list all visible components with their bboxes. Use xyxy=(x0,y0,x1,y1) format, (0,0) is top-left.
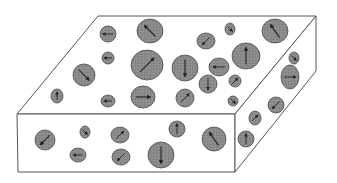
grain-top-17 xyxy=(176,89,194,107)
grain-top-11 xyxy=(225,23,235,35)
grain-right-23 xyxy=(238,131,254,147)
grain-top-9 xyxy=(172,55,198,81)
slab-diagram-canvas xyxy=(0,0,337,183)
magnetic-grains-diagram xyxy=(0,0,337,183)
grain-top-5 xyxy=(73,64,95,86)
grain-front-28 xyxy=(112,149,130,165)
grain-top-14 xyxy=(232,43,260,69)
grain-right-21 xyxy=(268,97,284,113)
grain-top-6 xyxy=(51,89,63,103)
grain-right-19 xyxy=(289,52,299,64)
grain-top-1 xyxy=(100,26,116,42)
grain-front-27 xyxy=(70,148,86,162)
grain-top-4 xyxy=(131,50,163,80)
grain-top-15 xyxy=(199,75,217,93)
grain-top-18 xyxy=(228,96,238,106)
grain-top-7 xyxy=(101,95,115,107)
grain-right-20 xyxy=(281,65,299,89)
grain-front-24 xyxy=(35,130,55,150)
grain-top-10 xyxy=(197,33,215,49)
grain-front-30 xyxy=(169,121,185,137)
grain-front-29 xyxy=(148,142,174,168)
grain-front-25 xyxy=(80,126,90,138)
grain-front-31 xyxy=(202,127,226,151)
grain-right-22 xyxy=(249,111,261,125)
grain-top-3 xyxy=(102,52,114,64)
grain-front-26 xyxy=(111,127,129,143)
grain-top-16 xyxy=(229,75,241,87)
grain-top-12 xyxy=(262,19,288,43)
grain-top-13 xyxy=(209,58,229,76)
grain-top-8 xyxy=(131,86,155,108)
grain-top-2 xyxy=(137,19,163,43)
